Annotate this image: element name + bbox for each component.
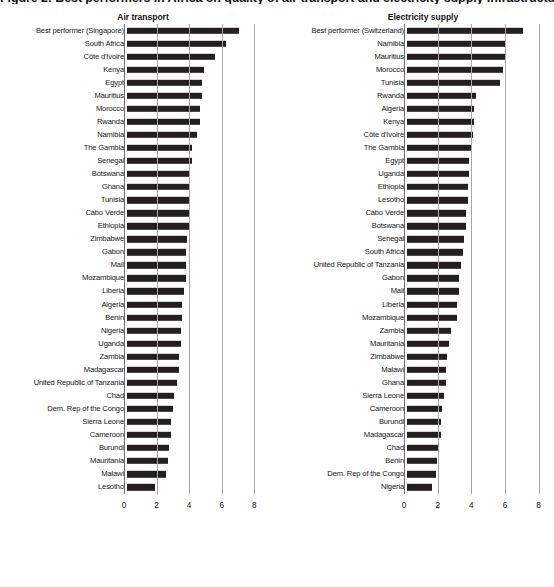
- category-label: Mozambique: [272, 314, 407, 322]
- bar-track: [127, 285, 267, 298]
- category-label: Cabo Verde: [272, 209, 407, 217]
- category-label: Sierra Leone: [272, 392, 407, 400]
- category-label: Botswana: [0, 170, 127, 178]
- bar-track: [127, 115, 267, 128]
- bar: [407, 158, 469, 164]
- bar-track: [407, 428, 545, 441]
- bar: [407, 484, 432, 490]
- bar: [127, 432, 171, 438]
- category-label: Dem. Rep of the Congo: [272, 470, 407, 478]
- bar: [127, 184, 190, 190]
- bar: [127, 197, 190, 203]
- bar-row: Ethiopia: [272, 181, 554, 194]
- category-label: Senegal: [0, 157, 127, 165]
- category-label: Zambia: [272, 327, 407, 335]
- x-tick-label: 8: [252, 501, 257, 510]
- bar: [407, 249, 463, 255]
- bar-row: Senegal: [0, 154, 272, 167]
- category-label: Uganda: [272, 170, 407, 178]
- bar: [407, 406, 442, 412]
- bar-track: [127, 455, 267, 468]
- bar-track: [127, 76, 267, 89]
- category-label: Cameroon: [272, 405, 407, 413]
- bar-track: [127, 89, 267, 102]
- bar-row: Algeria: [0, 298, 272, 311]
- bar-row: Mauritius: [0, 89, 272, 102]
- category-label: Rwanda: [272, 92, 407, 100]
- bar-row: The Gambia: [0, 141, 272, 154]
- bar-row: Best performer (Switzerland): [272, 24, 554, 37]
- bar-track: [127, 311, 267, 324]
- bar-row: Botswana: [0, 168, 272, 181]
- bar-row: United Republic of Tanzania: [272, 259, 554, 272]
- bar: [127, 484, 155, 490]
- bar-row: Sierra Leone: [272, 389, 554, 402]
- bar-track: [407, 363, 545, 376]
- bar-track: [407, 389, 545, 402]
- category-label: Morocco: [272, 66, 407, 74]
- panel-air-transport: Air transport Best performer (Singapore)…: [0, 10, 272, 587]
- bar-track: [127, 337, 267, 350]
- bar-track: [407, 24, 545, 37]
- bar-row: Lesotho: [0, 481, 272, 494]
- x-tick-label: 0: [402, 501, 407, 510]
- bar: [407, 445, 439, 451]
- category-label: Botswana: [272, 222, 407, 230]
- category-label: Tunisia: [272, 79, 407, 87]
- bar-track: [127, 468, 267, 481]
- bar-rows-electricity-supply: Best performer (Switzerland)NamibiaMauri…: [272, 24, 554, 494]
- bar-row: Mozambique: [0, 272, 272, 285]
- bar-row: Namibia: [272, 37, 554, 50]
- bar-row: Mauritius: [272, 50, 554, 63]
- category-label: Mauritius: [272, 53, 407, 61]
- bar-row: Benin: [272, 455, 554, 468]
- category-label: Zambia: [0, 353, 127, 361]
- bar-track: [407, 246, 545, 259]
- bar-track: [407, 481, 545, 494]
- x-tick-label: 2: [435, 501, 440, 510]
- bar-track: [127, 350, 267, 363]
- bar-row: Lesotho: [272, 194, 554, 207]
- bar: [407, 132, 473, 138]
- category-label: Egypt: [0, 79, 127, 87]
- bar-track: [127, 102, 267, 115]
- bar-row: Tunisia: [272, 76, 554, 89]
- category-label: United Republic of Tanzania: [272, 261, 407, 269]
- bar: [127, 106, 200, 112]
- bar-track: [127, 272, 267, 285]
- bar-row: Côte d'Ivoire: [272, 128, 554, 141]
- bar: [407, 93, 476, 99]
- bar-row: The Gambia: [272, 141, 554, 154]
- bar: [407, 432, 441, 438]
- bar-row: Best performer (Singapore): [0, 24, 272, 37]
- bar-track: [407, 168, 545, 181]
- category-label: Uganda: [0, 340, 127, 348]
- bar: [127, 393, 174, 399]
- bar-row: Zambia: [0, 350, 272, 363]
- bar: [407, 27, 523, 33]
- category-label: Mali: [272, 287, 407, 295]
- bar-track: [407, 63, 545, 76]
- bar: [127, 132, 197, 138]
- bar-track: [407, 259, 545, 272]
- bar: [127, 288, 184, 294]
- category-label: Zimbabwe: [272, 353, 407, 361]
- bar: [407, 393, 444, 399]
- bar-row: Kenya: [272, 115, 554, 128]
- category-label: Mauritania: [0, 457, 127, 465]
- panel-electricity-supply: Electricity supply Best performer (Switz…: [272, 10, 554, 587]
- category-label: Côte d'Ivoire: [0, 53, 127, 61]
- bar-track: [407, 220, 545, 233]
- bar-row: Nigeria: [0, 324, 272, 337]
- bar: [127, 340, 181, 346]
- bar: [407, 275, 459, 281]
- category-label: Rwanda: [0, 118, 127, 126]
- category-label: Mauritania: [272, 340, 407, 348]
- bar-row: Egypt: [272, 154, 554, 167]
- bar: [127, 458, 168, 464]
- bar-row: Algeria: [272, 102, 554, 115]
- bar: [127, 419, 171, 425]
- bar-row: Ethiopia: [0, 220, 272, 233]
- bar-row: Uganda: [0, 337, 272, 350]
- bar-row: Egypt: [0, 76, 272, 89]
